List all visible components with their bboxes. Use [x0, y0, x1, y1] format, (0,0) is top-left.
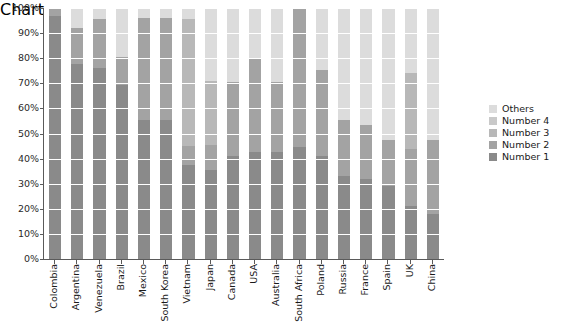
bar-segment[interactable] [427, 140, 439, 214]
bar-segment[interactable] [71, 28, 83, 64]
x-axis-tick-label: Vietnam [183, 264, 193, 304]
bar-segment[interactable] [93, 19, 105, 68]
y-axis-tick-mark [40, 234, 44, 235]
y-axis-tick-label: 80% [3, 53, 39, 63]
bar-segment[interactable] [138, 8, 150, 18]
bar-segment[interactable] [271, 8, 283, 82]
legend-label: Number 1 [502, 152, 549, 162]
bar-segment[interactable] [338, 120, 350, 176]
bar-column[interactable] [227, 8, 239, 259]
bar-segment[interactable] [249, 58, 261, 152]
bar-segment[interactable] [182, 19, 194, 146]
bar-segment[interactable] [293, 147, 305, 259]
bar-segment[interactable] [205, 145, 217, 170]
bar-segment[interactable] [271, 152, 283, 259]
bar-column[interactable] [316, 8, 328, 259]
bar-column[interactable] [405, 8, 417, 259]
legend-item[interactable]: Others [489, 103, 567, 115]
y-axis-tick-label: 90% [3, 28, 39, 38]
bar-segment[interactable] [138, 120, 150, 259]
bar-segment[interactable] [49, 8, 61, 16]
x-axis-tick-label: Argentina [72, 264, 82, 310]
bar-segment[interactable] [160, 18, 172, 120]
bar-segment[interactable] [360, 125, 372, 179]
bar-segment[interactable] [249, 8, 261, 58]
x-axis-labels: ColombiaArgentinaVenezuelaBrazilMexicoSo… [43, 264, 443, 322]
bar-column[interactable] [338, 8, 350, 259]
bar-segment[interactable] [205, 81, 217, 145]
bar-segment[interactable] [360, 8, 372, 125]
bar-segment[interactable] [293, 8, 305, 147]
bar-segment[interactable] [316, 8, 328, 69]
bar-column[interactable] [271, 8, 283, 259]
bar-column[interactable] [249, 8, 261, 259]
bar-segment[interactable] [227, 82, 239, 156]
bar-segment[interactable] [182, 146, 194, 165]
bar-column[interactable] [138, 8, 150, 259]
bar-column[interactable] [382, 8, 394, 259]
bar-segment[interactable] [338, 176, 350, 259]
bar-column[interactable] [293, 8, 305, 259]
bar-column[interactable] [427, 8, 439, 259]
y-axis-tick-mark [40, 83, 44, 84]
y-axis-tick-label: 20% [3, 204, 39, 214]
bar-segment[interactable] [205, 8, 217, 81]
y-axis-tick-label: 50% [3, 129, 39, 139]
bar-segment[interactable] [182, 165, 194, 259]
bar-column[interactable] [182, 8, 194, 259]
x-axis-tick-label: China [427, 264, 437, 291]
bar-column[interactable] [93, 8, 105, 259]
bar-column[interactable] [360, 8, 372, 259]
x-axis-tick-label: Canada [227, 264, 237, 300]
bar-segment[interactable] [205, 170, 217, 259]
bar-column[interactable] [49, 8, 61, 259]
bar-segment[interactable] [93, 68, 105, 259]
bar-column[interactable] [205, 8, 217, 259]
legend-item[interactable]: Number 2 [489, 139, 567, 151]
bar-segment[interactable] [93, 8, 105, 19]
legend-item[interactable]: Number 4 [489, 115, 567, 127]
x-axis-tick-label: France [360, 264, 370, 296]
bar-segment[interactable] [71, 8, 83, 28]
bar-segment[interactable] [227, 156, 239, 259]
y-axis-tick-mark [40, 58, 44, 59]
bar-segment[interactable] [338, 8, 350, 120]
bar-segment[interactable] [360, 179, 372, 259]
bar-segment[interactable] [138, 18, 150, 120]
bar-segment[interactable] [71, 64, 83, 259]
x-axis-tick-label: Colombia [49, 264, 59, 309]
bar-segment[interactable] [116, 85, 128, 259]
bar-segment[interactable] [227, 8, 239, 82]
bar-segment[interactable] [427, 8, 439, 140]
bar-segment[interactable] [405, 206, 417, 259]
bar-segment[interactable] [427, 214, 439, 259]
y-axis-tick-mark [40, 108, 44, 109]
legend-label: Number 4 [502, 116, 549, 126]
bar-segment[interactable] [271, 82, 283, 152]
bar-segment[interactable] [160, 120, 172, 259]
bar-segment[interactable] [316, 156, 328, 259]
bar-column[interactable] [116, 8, 128, 259]
legend-label: Number 3 [502, 128, 549, 138]
bar-column[interactable] [71, 8, 83, 259]
bar-segment[interactable] [382, 140, 394, 186]
bar-segment[interactable] [316, 70, 328, 157]
bar-column[interactable] [160, 8, 172, 259]
legend-label: Others [502, 104, 534, 114]
legend-item[interactable]: Number 1 [489, 151, 567, 163]
bar-segment[interactable] [182, 8, 194, 19]
bar-segment[interactable] [382, 8, 394, 140]
bar-segment[interactable] [116, 8, 128, 57]
legend-item[interactable]: Number 3 [489, 127, 567, 139]
legend-swatch [489, 129, 497, 137]
bar-segment[interactable] [160, 8, 172, 18]
y-axis-tick-label: 100% [3, 3, 39, 13]
bar-segment[interactable] [116, 57, 128, 85]
bar-segment[interactable] [405, 149, 417, 207]
bar-segment[interactable] [49, 16, 61, 259]
bar-segment[interactable] [405, 8, 417, 73]
legend-swatch [489, 117, 497, 125]
bar-segment[interactable] [382, 186, 394, 259]
bar-segment[interactable] [249, 152, 261, 259]
bar-segment[interactable] [405, 73, 417, 148]
